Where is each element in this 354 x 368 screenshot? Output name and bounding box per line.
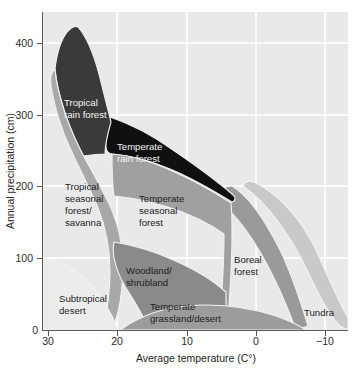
y-tick-label-400: 400 xyxy=(15,37,33,49)
y-tick-label-0: 0 xyxy=(32,324,38,336)
label-tropical-rain-forest-line-1: rain forest xyxy=(64,109,107,120)
label-woodland-shrubland-line-1: shrubland xyxy=(126,277,168,288)
x-tick-label-0: 0 xyxy=(253,335,259,347)
label-boreal-forest-line-0: Boreal xyxy=(234,254,262,265)
label-temperate-rain-forest-line-1: rain forest xyxy=(117,153,160,164)
label-temperate-grassland-line-1: grassland/desert xyxy=(150,313,221,324)
label-subtropical-desert-line-0: Subtropical xyxy=(59,293,107,304)
x-tick-label-30: 30 xyxy=(42,335,54,347)
whittaker-biome-chart: 400 300 200 100 0 30 20 10 0 −10 Average… xyxy=(0,0,354,368)
y-tick-labels: 400 300 200 100 0 xyxy=(15,37,38,336)
x-axis-title: Average temperature (C°) xyxy=(136,352,256,364)
label-temperate-seasonal-line-0: Temperate xyxy=(139,193,184,204)
label-temperate-seasonal-line-2: forest xyxy=(139,217,163,228)
label-boreal-forest-line-1: forest xyxy=(234,266,258,277)
label-subtropical-desert-line-1: desert xyxy=(59,305,86,316)
label-temperate-grassland-line-0: Temperate xyxy=(150,301,195,312)
label-temperate-rain-forest: Temperate rain forest xyxy=(117,141,162,164)
x-tick-label-minus10: −10 xyxy=(316,335,334,347)
label-woodland-shrubland-line-0: Woodland/ xyxy=(126,265,172,276)
label-tropical-seasonal-line-0: Tropical xyxy=(65,181,99,192)
label-temperate-seasonal-line-1: seasonal xyxy=(139,205,177,216)
label-temperate-rain-forest-line-0: Temperate xyxy=(117,141,162,152)
y-tick-label-200: 200 xyxy=(15,180,33,192)
label-tropical-rain-forest-line-0: Tropical xyxy=(64,97,98,108)
y-tick-label-300: 300 xyxy=(15,109,33,121)
label-tropical-seasonal-line-2: forest/ xyxy=(65,205,92,216)
label-tropical-seasonal-line-3: savanna xyxy=(65,217,102,228)
y-tick-label-100: 100 xyxy=(15,252,33,264)
label-tropical-seasonal-line-1: seasonal xyxy=(65,193,103,204)
chart-svg: 400 300 200 100 0 30 20 10 0 −10 Average… xyxy=(0,0,354,368)
x-tick-labels: 30 20 10 0 −10 xyxy=(42,335,334,347)
label-tundra-line-0: Tundra xyxy=(304,307,335,318)
x-tick-label-20: 20 xyxy=(111,335,123,347)
label-boreal-forest: Boreal forest xyxy=(234,254,262,277)
y-axis-title: Annual precipitation (cm) xyxy=(4,113,16,229)
label-woodland-shrubland: Woodland/ shrubland xyxy=(126,265,172,288)
label-tundra: Tundra xyxy=(304,307,335,318)
x-tick-label-10: 10 xyxy=(181,335,193,347)
